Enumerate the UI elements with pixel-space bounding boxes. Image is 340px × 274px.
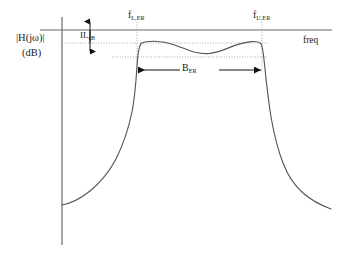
lower-band-edge-label: fL,ER bbox=[128, 10, 145, 20]
upper-band-edge-label-sub: U,ER bbox=[256, 14, 270, 21]
insertion-loss-label-base: IL bbox=[80, 30, 89, 40]
upper-band-edge-label: fU,ER bbox=[253, 10, 270, 20]
frequency-axis-label: freq bbox=[303, 36, 318, 46]
figure-canvas: |H(jω)| (dB) ILdB fL,ER fU,ER BER freq bbox=[0, 0, 340, 274]
response-plot bbox=[0, 0, 340, 274]
magnitude-units-label: (dB) bbox=[22, 48, 41, 59]
bandwidth-label-base: B bbox=[182, 62, 189, 73]
magnitude-axis-label: |H(jω)| bbox=[16, 33, 45, 44]
lower-band-edge-label-sub: L,ER bbox=[131, 14, 144, 21]
bandwidth-label: BER bbox=[182, 63, 197, 73]
insertion-loss-label-sub: dB bbox=[89, 35, 96, 41]
insertion-loss-label: ILdB bbox=[80, 31, 95, 40]
bandwidth-label-sub: ER bbox=[189, 67, 197, 74]
